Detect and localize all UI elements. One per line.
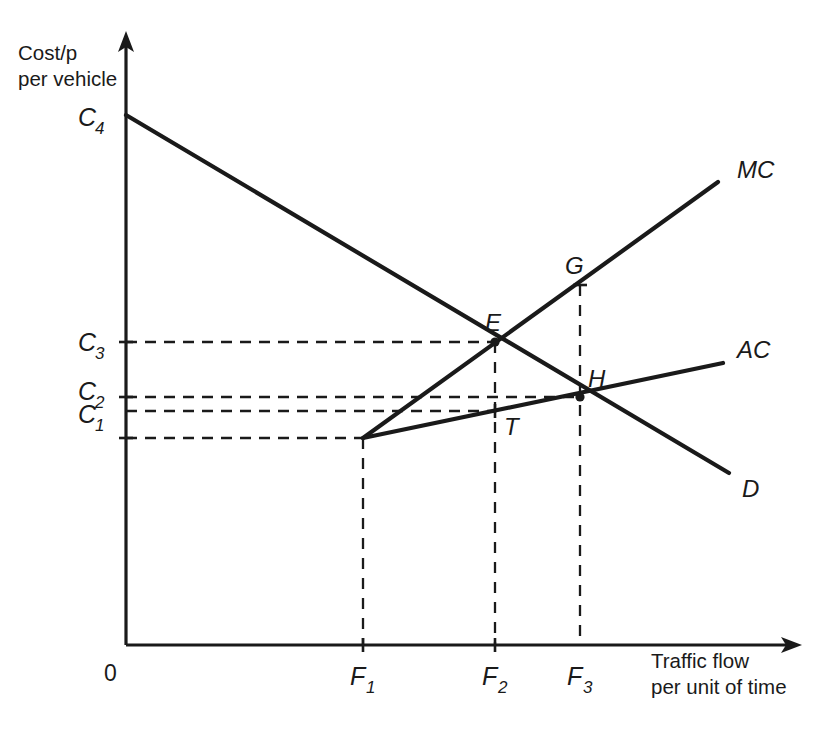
flow-label-f2: F 2 <box>482 662 508 697</box>
curves-group <box>126 115 729 473</box>
cost-label-c3-sub: 3 <box>95 344 105 363</box>
curve-labels-group: MC AC D <box>735 156 775 502</box>
x-axis-title-line1: Traffic flow <box>651 649 749 672</box>
flow-label-f1: F 1 <box>350 662 375 697</box>
x-axis-title-line2: per unit of time <box>651 675 787 698</box>
flow-label-f1-base: F <box>350 662 367 690</box>
curve-label-mc: MC <box>737 156 775 183</box>
flow-label-f3-sub: 3 <box>583 678 593 697</box>
axis-titles-group: Cost/p per vehicle Traffic flow per unit… <box>18 41 787 698</box>
flow-label-f1-sub: 1 <box>366 678 375 697</box>
cost-label-c4-sub: 4 <box>95 119 104 138</box>
flow-label-f3-base: F <box>567 662 584 690</box>
congestion-diagram-figure: C 4 C 3 C 2 C 1 F 1 F 2 <box>0 0 831 737</box>
y-axis-title-line2: per vehicle <box>18 67 117 90</box>
demand-curve-line <box>126 115 729 473</box>
flow-label-f2-sub: 2 <box>497 678 508 697</box>
point-labels-group: E G H T <box>485 252 606 440</box>
point-marker-e <box>490 337 499 346</box>
y-axis-title-line1: Cost/p <box>18 41 77 64</box>
cost-label-c4: C 4 <box>78 103 104 138</box>
point-marker-h <box>575 392 584 401</box>
flow-label-f2-base: F <box>482 662 499 690</box>
cost-label-c3: C 3 <box>78 328 105 363</box>
cost-axis-labels-group: C 4 C 3 C 2 C 1 <box>78 103 105 435</box>
scan-artifact-top <box>196 0 200 11</box>
vertical-guides-group <box>363 285 580 645</box>
point-label-t: T <box>504 413 521 440</box>
curve-label-d: D <box>742 475 759 502</box>
point-label-h: H <box>588 365 606 392</box>
flow-label-f3: F 3 <box>567 662 593 697</box>
flow-axis-labels-group: F 1 F 2 F 3 <box>350 662 593 697</box>
point-label-g: G <box>565 252 584 279</box>
cost-flow-chart: C 4 C 3 C 2 C 1 F 1 F 2 <box>0 0 831 737</box>
point-label-e: E <box>485 309 502 336</box>
cost-label-c1-sub: 1 <box>95 416 104 435</box>
curve-label-ac: AC <box>735 336 771 363</box>
origin-label: 0 <box>104 660 117 686</box>
